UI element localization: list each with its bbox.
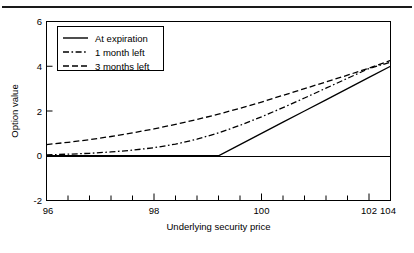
series-1-month-left [47, 62, 391, 155]
y-tick-label-6: 6 [37, 16, 42, 27]
y-tick-label-2: 2 [37, 106, 42, 117]
x-tick-label-104: 104 [380, 205, 396, 216]
series-at-expiration [47, 66, 391, 156]
chart-svg: 6 4 2 0 -2 [0, 0, 414, 253]
x-tick-label-96: 96 [43, 205, 54, 216]
x-tick-label-100: 100 [254, 205, 270, 216]
y-tick-label-neg2: -2 [34, 195, 42, 206]
y-axis-title: Option value [9, 84, 20, 137]
legend-label-3-months-left: 3 months left [95, 61, 150, 72]
x-axis-minor-ticks [68, 196, 348, 201]
legend-label-at-expiration: At expiration [95, 33, 148, 44]
y-tick-label-0: 0 [37, 150, 42, 161]
x-axis-title: Underlying security price [166, 221, 270, 232]
legend: At expiration 1 month left 3 months left [58, 27, 164, 72]
plot-area: 6 4 2 0 -2 [0, 0, 414, 253]
y-tick-label-4: 4 [37, 61, 42, 72]
series-3-months-left [47, 60, 391, 144]
x-tick-label-102: 102 [361, 205, 377, 216]
x-tick-label-98: 98 [149, 205, 160, 216]
y-axis-ticks [47, 22, 53, 201]
legend-label-1-month-left: 1 month left [95, 47, 145, 58]
figure-container: 6 4 2 0 -2 [0, 0, 414, 253]
